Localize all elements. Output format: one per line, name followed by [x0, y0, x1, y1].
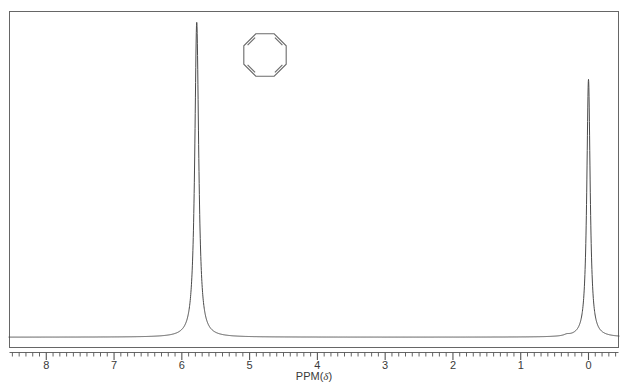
axis-tick-label: 7: [111, 359, 117, 371]
axis-tick-label: 3: [382, 359, 388, 371]
spectrum-canvas: 876543210 PPM(δ): [0, 0, 628, 392]
axis-tick-label: 2: [450, 359, 456, 371]
nmr-spectrum-figure: 876543210 PPM(δ): [0, 0, 628, 392]
axis-tick-label: 6: [179, 359, 185, 371]
axis-ruler: 876543210: [10, 353, 619, 372]
axis-tick-label: 0: [585, 359, 591, 371]
plot-frame: [10, 12, 619, 348]
axis-title: PPM(δ): [296, 370, 332, 382]
axis-title-ppm: PPM(: [296, 370, 324, 382]
axis-tick-label: 5: [247, 359, 253, 371]
axis-title-close-paren: ): [328, 370, 332, 382]
axis-tick-label: 8: [43, 359, 49, 371]
axis-tick-label: 1: [518, 359, 524, 371]
